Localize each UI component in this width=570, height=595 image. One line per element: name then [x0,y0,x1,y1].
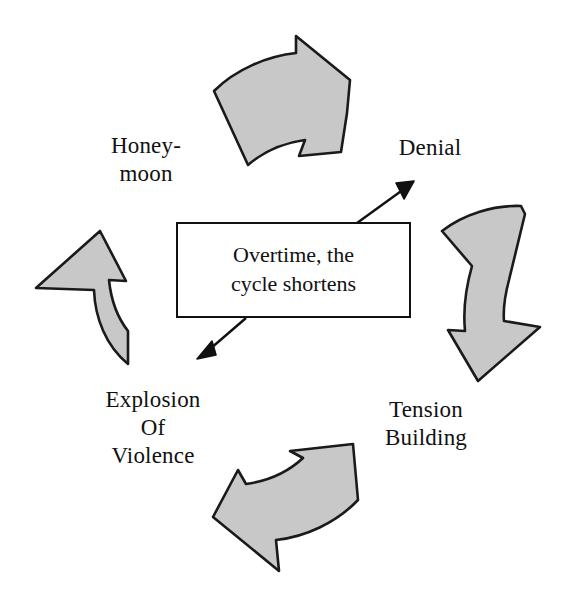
curved-arrow-top-shape [214,36,350,165]
curved-arrow-right-shape [442,206,540,381]
curved-arrow-bottom [213,444,358,571]
phase-label-tension-building: Tension Building [352,396,500,452]
curved-arrow-top [214,36,350,165]
note-pointer-to-explosion [197,318,246,359]
curved-arrow-left-shape [36,231,128,364]
curved-arrow-left [36,231,128,364]
note-pointer-to-denial-head [396,181,414,199]
note-pointer-to-denial-line [357,189,404,223]
curved-arrow-bottom-shape [213,444,358,571]
phase-label-explosion-of-violence: Explosion Of Violence [78,386,228,470]
phase-label-honeymoon: Honey- moon [82,132,210,188]
note-pointer-to-explosion-head [197,341,216,359]
center-note-text: Overtime, the cycle shortens [225,241,362,298]
curved-arrow-right [442,206,540,381]
center-note-box: Overtime, the cycle shortens [176,222,411,318]
note-pointer-to-explosion-line [210,318,246,349]
cycle-of-violence-diagram: Overtime, the cycle shortens Honey- moon… [0,0,570,595]
note-pointer-to-denial [357,181,414,223]
phase-label-denial: Denial [368,134,492,162]
